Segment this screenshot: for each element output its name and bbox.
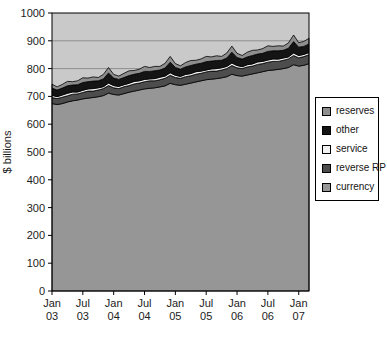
legend-label-currency: currency — [336, 182, 374, 192]
legend-item-service: service — [322, 144, 375, 154]
y-axis: 01002003004005006007008009001000 — [21, 7, 52, 297]
x-tick-label: Jul03 — [76, 297, 90, 322]
legend-item-reverse-rp: reverse RP — [322, 163, 375, 173]
y-tick-label: 200 — [27, 229, 45, 241]
y-tick-label: 1000 — [21, 7, 45, 19]
legend-item-reserves: reserves — [322, 106, 375, 116]
x-tick-label: Jan06 — [228, 297, 246, 322]
chart-legend: reservesotherservicereverse RPcurrency — [315, 97, 379, 201]
x-axis: Jan03Jul03Jan04Jul04Jan05Jul05Jan06Jul06… — [43, 291, 307, 322]
x-tick-label: Jan04 — [105, 297, 123, 322]
stacked-area-figure: 01002003004005006007008009001000Jan03Jul… — [0, 0, 387, 340]
legend-item-other: other — [322, 125, 375, 135]
y-tick-label: 700 — [27, 90, 45, 102]
y-tick-label: 800 — [27, 63, 45, 75]
legend-swatch-currency — [322, 183, 331, 192]
legend-label-service: service — [336, 144, 368, 154]
legend-swatch-service — [322, 145, 331, 154]
y-tick-label: 300 — [27, 202, 45, 214]
y-tick-label: 400 — [27, 174, 45, 186]
y-tick-label: 600 — [27, 118, 45, 130]
x-tick-label: Jul05 — [199, 297, 213, 322]
y-axis-title: $ billions — [1, 130, 13, 173]
legend-label-reserves: reserves — [336, 106, 374, 116]
x-tick-label: Jul06 — [261, 297, 275, 322]
y-tick-label: 0 — [39, 285, 45, 297]
legend-label-other: other — [336, 125, 359, 135]
legend-item-currency: currency — [322, 182, 375, 192]
legend-swatch-reverse-rp — [322, 164, 331, 173]
y-tick-label: 500 — [27, 146, 45, 158]
y-tick-label: 100 — [27, 257, 45, 269]
x-tick-label: Jan05 — [166, 297, 184, 322]
legend-label-reverse-rp: reverse RP — [336, 163, 386, 173]
legend-swatch-reserves — [322, 107, 331, 116]
x-tick-label: Jan07 — [290, 297, 308, 322]
x-tick-label: Jan03 — [43, 297, 61, 322]
x-tick-label: Jul04 — [137, 297, 151, 322]
legend-swatch-other — [322, 126, 331, 135]
y-tick-label: 900 — [27, 35, 45, 47]
